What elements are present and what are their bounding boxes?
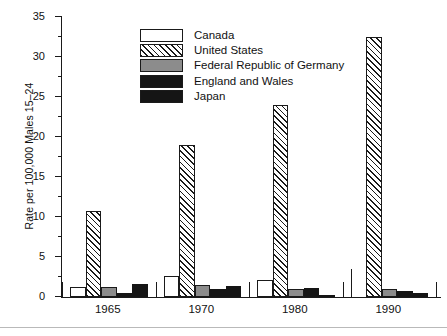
- white-swatch: [140, 29, 183, 42]
- bar: [226, 286, 242, 297]
- black-swatch: [140, 75, 183, 88]
- bar: [86, 211, 102, 297]
- black-swatch: [140, 90, 183, 103]
- y-axis-minor-tick: [58, 36, 63, 37]
- y-axis-tick: 30: [55, 56, 62, 57]
- legend-item[interactable]: England and Wales: [140, 75, 344, 88]
- y-axis-minor-tick: [58, 76, 63, 77]
- y-axis-tick: 20: [55, 136, 62, 137]
- y-axis-tick: 10: [55, 216, 62, 217]
- y-axis-tick: 5: [55, 256, 62, 257]
- x-axis-tick-label: 1965: [95, 303, 121, 315]
- y-axis-tick: 35: [55, 16, 62, 17]
- bar: [117, 293, 133, 297]
- bar: [101, 287, 117, 297]
- gray-swatch: [140, 59, 183, 72]
- y-axis-tick: 15: [55, 176, 62, 177]
- footer-divider: [0, 327, 447, 328]
- y-axis-tick-label: 25: [33, 90, 45, 102]
- bar: [413, 293, 429, 297]
- legend-item-label: Japan: [194, 90, 225, 103]
- bar: [132, 284, 148, 297]
- y-axis-minor-tick: [58, 276, 63, 277]
- bar: [257, 280, 273, 297]
- y-axis-tick-label: 20: [33, 130, 45, 142]
- y-axis-minor-tick: [58, 236, 63, 237]
- bar: [304, 288, 320, 297]
- bar: [70, 287, 86, 297]
- bar: [288, 289, 304, 297]
- legend-item-label: Federal Republic of Germany: [194, 59, 344, 72]
- y-axis-tick-label: 30: [33, 50, 45, 62]
- bar: [366, 37, 382, 297]
- y-axis-tick-label: 35: [33, 10, 45, 22]
- x-axis-tick-label: 1990: [375, 303, 401, 315]
- y-axis-tick: 25: [55, 96, 62, 97]
- legend-item-label: Canada: [194, 29, 234, 42]
- legend-item[interactable]: Canada: [140, 29, 344, 42]
- y-axis-tick-label: 0: [39, 290, 45, 302]
- bar: [179, 145, 195, 297]
- y-axis-minor-tick: [58, 196, 63, 197]
- plot-area: 05101520253035 CanadaUnited StatesFedera…: [61, 17, 435, 297]
- bar: [382, 289, 398, 297]
- x-axis-group-separator: [156, 282, 157, 297]
- legend-item[interactable]: United States: [140, 44, 344, 57]
- bar: [164, 276, 180, 297]
- y-axis-minor-tick: [58, 156, 63, 157]
- y-axis-tick-label: 10: [33, 210, 45, 222]
- bar: [397, 291, 413, 297]
- hatched-swatch: [140, 44, 183, 57]
- y-axis-minor-tick: [58, 116, 63, 117]
- y-axis-tick-label: 15: [33, 170, 45, 182]
- x-axis-group-separator: [343, 282, 344, 297]
- y-axis-title: Rate per 100,000 Males 15–24: [23, 31, 35, 281]
- bar: [195, 285, 211, 297]
- legend-item-label: England and Wales: [194, 75, 293, 88]
- legend-item-label: United States: [194, 44, 263, 57]
- x-axis-tick-label: 1970: [188, 303, 214, 315]
- x-axis-group-separator: [62, 282, 63, 297]
- legend-item[interactable]: Japan: [140, 90, 344, 103]
- legend-item[interactable]: Federal Republic of Germany: [140, 59, 344, 72]
- y-axis-tick-label: 5: [39, 250, 45, 262]
- x-axis-group-separator: [436, 282, 437, 297]
- x-axis-tick-label: 1980: [282, 303, 308, 315]
- bar-chart-figure: Rate per 100,000 Males 15–24 05101520253…: [0, 0, 447, 336]
- chart-legend: CanadaUnited StatesFederal Republic of G…: [140, 29, 344, 103]
- bar: [319, 295, 335, 297]
- x-axis-group-separator: [249, 282, 250, 297]
- bar: [351, 269, 352, 297]
- bar: [210, 289, 226, 297]
- bar: [273, 105, 289, 297]
